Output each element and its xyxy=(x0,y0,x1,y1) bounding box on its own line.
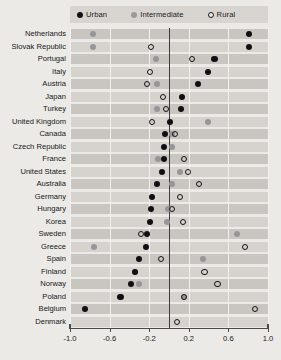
hollow-circle-icon xyxy=(208,12,214,18)
data-point-intermediate xyxy=(169,144,175,150)
x-gridline xyxy=(110,28,111,328)
category-label: Slovak Republic xyxy=(0,42,66,52)
chart-legend: Urban Intermediate Rural xyxy=(70,6,268,23)
x-gridline xyxy=(70,28,71,328)
category-label: Korea xyxy=(0,217,66,227)
x-axis-tick-label: -0.2 xyxy=(143,334,156,343)
dot-plot-chart: Urban Intermediate Rural NetherlandsSlov… xyxy=(0,0,281,360)
category-label: Poland xyxy=(0,292,66,302)
category-label: Japan xyxy=(0,92,66,102)
data-point-urban xyxy=(159,169,165,175)
x-axis-tick xyxy=(149,328,150,332)
data-point-rural xyxy=(174,319,180,325)
plot-area xyxy=(70,28,268,328)
category-label: Sweden xyxy=(0,229,66,239)
data-point-intermediate xyxy=(164,219,170,225)
data-point-intermediate xyxy=(91,244,97,250)
x-axis-tick-label: -0.6 xyxy=(103,334,116,343)
x-axis-tick xyxy=(228,328,229,332)
data-point-urban xyxy=(205,69,211,75)
x-axis-tick-label: -1.0 xyxy=(63,334,76,343)
category-label: Germany xyxy=(0,192,66,202)
data-point-rural xyxy=(185,169,191,175)
x-axis-tick xyxy=(110,328,111,332)
x-axis-end-cap xyxy=(69,324,70,329)
legend-label-urban: Urban xyxy=(86,10,107,19)
data-point-rural xyxy=(180,219,186,225)
x-axis-tick-label: 0.2 xyxy=(184,334,195,343)
x-axis-tick-label: 1.0 xyxy=(263,334,274,343)
category-label: Australia xyxy=(0,179,66,189)
category-label: Belgium xyxy=(0,304,66,314)
x-axis-tick xyxy=(189,328,190,332)
data-point-intermediate xyxy=(205,119,211,125)
category-label: Finland xyxy=(0,267,66,277)
legend-label-rural: Rural xyxy=(217,10,236,19)
zero-reference-line xyxy=(169,28,170,328)
category-label: Spain xyxy=(0,254,66,264)
filled-grey-circle-icon xyxy=(131,12,137,18)
category-label: Canada xyxy=(0,129,66,139)
category-label: United States xyxy=(0,167,66,177)
data-point-urban xyxy=(117,294,123,300)
data-point-rural xyxy=(201,269,207,275)
category-label: Denmark xyxy=(0,317,66,327)
data-point-intermediate xyxy=(90,44,96,50)
x-gridline xyxy=(189,28,190,328)
category-label: Netherlands xyxy=(0,29,66,39)
data-point-urban xyxy=(167,119,173,125)
data-point-intermediate xyxy=(177,169,183,175)
legend-item-rural: Rural xyxy=(208,10,236,19)
category-label: Turkey xyxy=(0,104,66,114)
category-label: Portugal xyxy=(0,54,66,64)
x-gridline xyxy=(268,28,269,328)
data-point-urban xyxy=(246,44,252,50)
data-point-urban xyxy=(211,56,217,62)
data-point-rural xyxy=(181,294,187,300)
category-label: Italy xyxy=(0,67,66,77)
x-axis-tick-label: 0.6 xyxy=(223,334,234,343)
category-label: Austria xyxy=(0,79,66,89)
legend-item-urban: Urban xyxy=(77,10,107,19)
category-label: United Kingdom xyxy=(0,117,66,127)
x-axis-line xyxy=(70,328,268,329)
category-label: France xyxy=(0,154,66,164)
data-point-urban xyxy=(161,144,167,150)
category-label: Czech Republic xyxy=(0,142,66,152)
x-gridline xyxy=(228,28,229,328)
data-point-intermediate xyxy=(200,256,206,262)
category-label: Hungary xyxy=(0,204,66,214)
filled-black-circle-icon xyxy=(77,12,83,18)
data-point-urban xyxy=(149,194,155,200)
category-label: Greece xyxy=(0,242,66,252)
data-point-rural xyxy=(177,194,183,200)
legend-item-intermediate: Intermediate xyxy=(131,10,183,19)
category-label: Norway xyxy=(0,279,66,289)
data-point-urban xyxy=(179,94,185,100)
x-axis-end-cap xyxy=(267,324,268,329)
data-point-urban xyxy=(147,219,153,225)
legend-label-intermediate: Intermediate xyxy=(140,10,183,19)
